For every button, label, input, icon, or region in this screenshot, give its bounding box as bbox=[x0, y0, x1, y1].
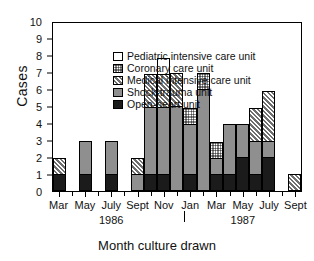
x-tick-label: July bbox=[259, 199, 279, 211]
bar-segment bbox=[144, 107, 157, 175]
bar-segment bbox=[249, 141, 262, 175]
y-tick-label: 9 bbox=[2, 34, 42, 45]
y-tick-label: 1 bbox=[2, 170, 42, 181]
x-tick-mark-minor bbox=[177, 192, 178, 196]
bar-segment bbox=[236, 124, 249, 158]
x-tick-mark bbox=[269, 192, 270, 197]
year-label: 1986 bbox=[99, 214, 123, 226]
x-tick-mark bbox=[243, 192, 244, 197]
bar-column bbox=[288, 23, 301, 191]
plot-area: Pediatric intensive care unitCoronary ca… bbox=[52, 22, 302, 192]
y-tick-label: 2 bbox=[2, 153, 42, 164]
bar-segment bbox=[183, 108, 196, 125]
bar-segment bbox=[183, 124, 196, 175]
x-tick-label: May bbox=[75, 199, 96, 211]
bar-segment bbox=[249, 174, 262, 191]
bar-segment bbox=[210, 158, 223, 175]
x-tick-mark bbox=[190, 192, 191, 197]
bar-segment bbox=[105, 174, 118, 191]
x-tick-mark-minor bbox=[151, 192, 152, 196]
y-tick-label: 10 bbox=[2, 17, 42, 28]
legend-label: Pediatric intensive care unit bbox=[127, 51, 255, 62]
y-tick-label: 0 bbox=[2, 187, 42, 198]
legend-swatch-icon bbox=[113, 64, 123, 73]
x-tick-label: Sept bbox=[126, 199, 149, 211]
x-tick-label: Nov bbox=[154, 199, 174, 211]
x-tick-label: July bbox=[101, 199, 121, 211]
bar-segment bbox=[131, 158, 144, 175]
bar-column bbox=[53, 23, 66, 191]
year-divider bbox=[184, 211, 185, 222]
x-tick-mark bbox=[111, 192, 112, 197]
bar-segment bbox=[144, 174, 157, 191]
bar-segment bbox=[53, 158, 66, 175]
stacked-bar bbox=[210, 143, 223, 191]
y-tick-label: 6 bbox=[2, 85, 42, 96]
bar-segment bbox=[157, 107, 170, 175]
x-axis-ticks: MarMayJulySeptNovJanMarMayJulySept198619… bbox=[52, 192, 302, 222]
bar-segment bbox=[157, 174, 170, 191]
bar-segment bbox=[223, 124, 236, 175]
bar-segment bbox=[53, 174, 66, 191]
y-tick-label: 4 bbox=[2, 119, 42, 130]
bar-segment bbox=[105, 141, 118, 175]
x-tick-mark-minor bbox=[230, 192, 231, 196]
bar-column bbox=[79, 23, 92, 191]
legend-label: Coronary care unit bbox=[127, 63, 213, 74]
legend-label: Shock-trauma unit bbox=[127, 87, 212, 98]
x-tick-mark bbox=[164, 192, 165, 197]
x-tick-mark-minor bbox=[98, 192, 99, 196]
legend-item: Shock-trauma unit bbox=[113, 87, 255, 98]
bar-segment bbox=[262, 91, 275, 142]
x-tick-label: Mar bbox=[49, 199, 68, 211]
x-tick-label: Mar bbox=[207, 199, 226, 211]
legend-swatch-icon bbox=[113, 52, 123, 61]
bar-segment bbox=[262, 157, 275, 191]
bar-segment bbox=[170, 106, 183, 191]
bar-segment bbox=[79, 174, 92, 191]
x-tick-label: May bbox=[232, 199, 253, 211]
legend-label: Open-heart unit bbox=[127, 99, 200, 110]
legend-item: Medical intensive care unit bbox=[113, 75, 255, 86]
bar-segment bbox=[223, 174, 236, 191]
legend-item: Pediatric intensive care unit bbox=[113, 51, 255, 62]
bar-segment bbox=[262, 141, 275, 158]
stacked-bar bbox=[131, 159, 144, 191]
stacked-bar bbox=[249, 109, 262, 191]
y-tick-label: 8 bbox=[2, 51, 42, 62]
legend-swatch-icon bbox=[113, 76, 123, 85]
stacked-bar bbox=[53, 159, 66, 191]
y-tick-label: 7 bbox=[2, 68, 42, 79]
bar-chart: Cases 012345678910 Pediatric intensive c… bbox=[0, 0, 314, 261]
x-tick-mark-minor bbox=[203, 192, 204, 196]
year-label: 1987 bbox=[231, 214, 255, 226]
stacked-bar bbox=[288, 175, 301, 191]
stacked-bar bbox=[236, 125, 249, 191]
x-tick-mark bbox=[59, 192, 60, 197]
bar-segment bbox=[249, 108, 262, 142]
x-axis-label: Month culture drawn bbox=[0, 238, 314, 253]
bar-segment bbox=[236, 157, 249, 191]
bar-column bbox=[92, 23, 105, 191]
y-axis-ticks: 012345678910 bbox=[0, 22, 52, 192]
bar-segment bbox=[183, 174, 196, 191]
legend: Pediatric intensive care unitCoronary ca… bbox=[113, 51, 255, 110]
x-tick-mark-minor bbox=[72, 192, 73, 196]
y-tick-label: 5 bbox=[2, 102, 42, 113]
bar-segment bbox=[79, 141, 92, 175]
stacked-bar bbox=[79, 142, 92, 191]
x-tick-mark bbox=[216, 192, 217, 197]
bar-column bbox=[262, 23, 275, 191]
bar-segment bbox=[288, 174, 301, 191]
x-tick-mark bbox=[85, 192, 86, 197]
bar-segment bbox=[210, 174, 223, 191]
x-tick-mark-minor bbox=[282, 192, 283, 196]
x-tick-label: Jan bbox=[181, 199, 199, 211]
x-tick-mark-minor bbox=[124, 192, 125, 196]
x-tick-mark-minor bbox=[256, 192, 257, 196]
legend-item: Open-heart unit bbox=[113, 99, 255, 110]
bar-segment bbox=[131, 174, 144, 191]
x-tick-mark bbox=[138, 192, 139, 197]
x-tick-mark bbox=[295, 192, 296, 197]
stacked-bar bbox=[183, 109, 196, 191]
